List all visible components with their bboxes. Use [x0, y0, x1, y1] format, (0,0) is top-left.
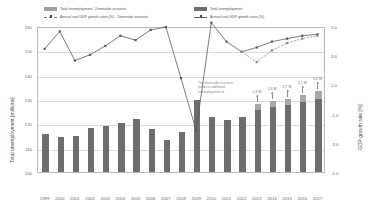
line-solid-icon [194, 13, 207, 21]
x-axis-tick: 2015 [282, 196, 292, 201]
x-axis-tick: 2007 [161, 196, 171, 201]
bar [58, 137, 64, 172]
bar [118, 123, 124, 172]
bar [209, 117, 215, 172]
x-axis-tick: 2010 [207, 196, 217, 201]
bar [255, 108, 261, 172]
bar [179, 132, 185, 172]
legend-label: Annual real GDP growth rates (%) [210, 13, 264, 21]
legend-label: Total unemployment [210, 5, 242, 13]
legend-label: Annual real GDP growth rates (%) - Downs… [60, 13, 148, 21]
increment-arrow-icon [287, 90, 288, 97]
line-dashed-icon [44, 13, 57, 21]
data-label: 2.7 M [283, 85, 292, 89]
y-axis-tick: 110 [10, 146, 32, 151]
y-axis-tick: 100 [10, 171, 32, 176]
legend-item-downside-unemployment: Total unemployment - Downside scenario [44, 5, 148, 13]
y2-axis-tick: -5.0 [331, 171, 355, 176]
bar [194, 100, 200, 172]
bar [270, 105, 276, 172]
y-axis-tick: 130 [10, 98, 32, 103]
y-axis-tick: 120 [10, 122, 32, 127]
increment-arrow-icon [272, 92, 273, 99]
increment-arrow-icon [317, 82, 318, 89]
x-axis-tick: 1999 [40, 196, 50, 201]
y2-axis-tick: 5.0 [331, 25, 355, 30]
data-label: 3.2 M [313, 77, 322, 81]
x-axis-tick: 2008 [176, 196, 186, 201]
bar [164, 140, 170, 172]
bar [300, 100, 306, 172]
x-axis-tick: 2009 [191, 196, 201, 201]
increment-arrow-icon [302, 86, 303, 93]
y2-axis-tick: -1.0 [331, 112, 355, 117]
y-axis-tick: 140 [10, 73, 32, 78]
x-axis-tick: 2016 [297, 196, 307, 201]
x-axis-tick: 2001 [70, 196, 80, 201]
bar [103, 126, 109, 172]
legend-column-left: Total unemployment - Downside scenario A… [44, 5, 148, 21]
bar [73, 136, 79, 172]
bar-dark-icon [194, 5, 207, 13]
increment-arrow-icon [257, 95, 258, 102]
y2-axis-tick: 1.0 [331, 83, 355, 88]
x-axis-tick: 2017 [313, 196, 323, 201]
x-axis-tick: 2002 [85, 196, 95, 201]
bar-downside-increment [315, 91, 321, 99]
bar [315, 97, 321, 172]
y2-axis-tick: -3.0 [331, 141, 355, 146]
legend-item-total-unemployment: Total unemployment [194, 5, 264, 13]
x-axis-tick: 2013 [252, 196, 262, 201]
y2-axis-title: GDP growth rate [%] [357, 104, 363, 150]
data-label: 3.1 M [298, 81, 307, 85]
bar [42, 134, 48, 172]
x-axis-tick: 2005 [131, 196, 141, 201]
bar-downside-increment [285, 99, 291, 106]
annotation-text: The downside scenario predicts additiona… [198, 81, 245, 94]
bar [133, 119, 139, 172]
x-axis-tick: 2014 [267, 196, 277, 201]
y-axis-tick: 150 [10, 49, 32, 54]
y-axis-title: Total unemployment [millions] [9, 97, 15, 163]
legend-item-downside-gdp: Annual real GDP growth rates (%) - Downs… [44, 13, 148, 21]
bar [149, 129, 155, 172]
x-axis-tick: 2006 [146, 196, 156, 201]
x-axis-tick: 2012 [237, 196, 247, 201]
gridline [38, 52, 324, 53]
data-label: 2.4 M [252, 90, 261, 94]
plot-area [37, 27, 325, 173]
bar-light-icon [44, 5, 57, 13]
x-axis-tick: 2004 [116, 196, 126, 201]
gridline [38, 125, 324, 126]
gridline [38, 77, 324, 78]
data-label: 2.6 M [267, 87, 276, 91]
legend-item-gdp: Annual real GDP growth rates (%) [194, 13, 264, 21]
y-axis-tick: 160 [10, 25, 32, 30]
bar [239, 117, 245, 172]
gridline [38, 101, 324, 102]
legend-label: Total unemployment - Downside scenario [60, 5, 126, 13]
bar-downside-increment [300, 95, 306, 103]
x-axis-tick: 2011 [222, 196, 231, 201]
bar-downside-increment [255, 104, 261, 110]
chart-legend: Total unemployment - Downside scenario A… [44, 5, 340, 22]
bar [224, 120, 230, 172]
unemployment-gdp-chart: Total unemployment - Downside scenario A… [0, 0, 370, 204]
x-axis-tick: 2003 [100, 196, 110, 201]
bar-downside-increment [270, 101, 276, 107]
bar [285, 103, 291, 172]
y2-axis-tick: 3.0 [331, 54, 355, 59]
x-axis-tick: 2000 [55, 196, 65, 201]
legend-column-right: Total unemployment Annual real GDP growt… [194, 5, 264, 21]
bar [88, 128, 94, 172]
